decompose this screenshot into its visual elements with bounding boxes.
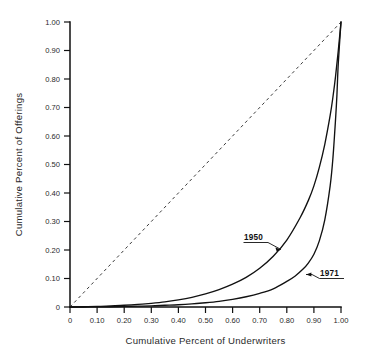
x-tick-label: 0.30 bbox=[144, 316, 159, 325]
x-tick-label: 0.50 bbox=[198, 316, 213, 325]
y-axis-title: Cumulative Percent of Offerings bbox=[13, 93, 24, 237]
x-tick-label: 0.90 bbox=[307, 316, 322, 325]
x-axis-title: Cumulative Percent of Underwriters bbox=[126, 335, 286, 346]
chart-figure: 0 0.10 0.20 0.30 0.40 0.50 0.60 0.70 0.8… bbox=[0, 0, 370, 358]
series-label-1971: 1971 bbox=[320, 269, 339, 278]
y-tick-label: 0.90 bbox=[45, 46, 60, 55]
y-tick-label: 0.50 bbox=[45, 160, 60, 169]
series-label-1950: 1950 bbox=[244, 233, 263, 242]
x-tick-label: 0.20 bbox=[117, 316, 132, 325]
y-tick-label: 0.80 bbox=[45, 75, 60, 84]
x-tick-label: 0.70 bbox=[252, 316, 267, 325]
y-tick-label: 0.10 bbox=[45, 274, 60, 283]
y-tick-label: 0.70 bbox=[45, 103, 60, 112]
y-tick-label: 0.40 bbox=[45, 189, 60, 198]
x-tick-label: 1.00 bbox=[334, 316, 349, 325]
x-tick-label: 0 bbox=[68, 316, 72, 325]
y-tick-label: 0.30 bbox=[45, 217, 60, 226]
x-tick-label: 0.60 bbox=[225, 316, 240, 325]
y-tick-label: 0.60 bbox=[45, 132, 60, 141]
x-tick-label: 0.40 bbox=[171, 316, 186, 325]
y-tick-label: 0.20 bbox=[45, 246, 60, 255]
y-tick-label: 0 bbox=[56, 303, 60, 312]
lorenz-curve-chart: 0 0.10 0.20 0.30 0.40 0.50 0.60 0.70 0.8… bbox=[0, 0, 370, 358]
y-tick-label: 1.00 bbox=[45, 18, 60, 27]
x-tick-label: 0.80 bbox=[279, 316, 294, 325]
x-tick-label: 0.10 bbox=[90, 316, 105, 325]
